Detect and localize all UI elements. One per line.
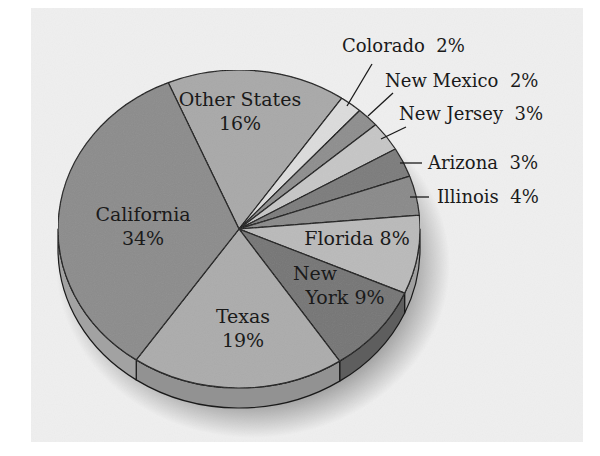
label-new-jersey: New Jersey 3% xyxy=(399,103,543,124)
label-colorado: Colorado 2% xyxy=(342,35,465,56)
pie-chart: Other States16%Colorado 2%New Mexico 2%N… xyxy=(0,0,600,456)
label-florida: Florida 8% xyxy=(304,227,410,249)
chart-container: Other States16%Colorado 2%New Mexico 2%N… xyxy=(0,0,600,456)
label-new-mexico: New Mexico 2% xyxy=(385,70,538,91)
label-illinois: Illinois 4% xyxy=(437,186,539,207)
label-arizona: Arizona 3% xyxy=(427,152,538,173)
